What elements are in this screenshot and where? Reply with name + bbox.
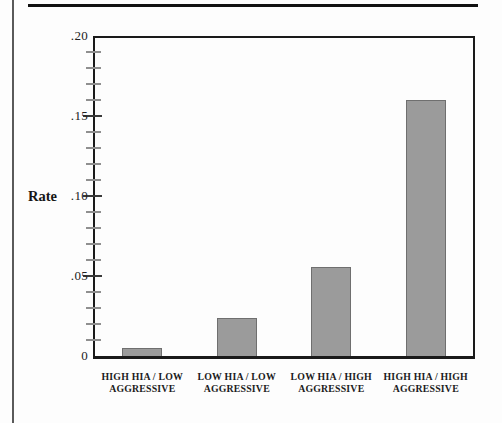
y-minor-tick [86, 147, 101, 149]
y-tick-label: .20 [38, 28, 88, 44]
page-top-rule [28, 4, 478, 7]
y-minor-tick [86, 339, 101, 341]
bar-3 [311, 267, 351, 356]
y-minor-tick [86, 163, 101, 165]
y-minor-tick [86, 83, 101, 85]
bar-4 [406, 100, 446, 356]
x-category-label: HIGH HIA / HIGH AGGRESSIVE [374, 371, 478, 395]
y-minor-tick [86, 211, 101, 213]
x-category-label: LOW HIA / HIGH AGGRESSIVE [279, 371, 383, 395]
page-left-rule [12, 0, 14, 423]
bar-2 [217, 318, 257, 356]
x-category-label: LOW HIA / LOW AGGRESSIVE [185, 371, 289, 395]
bar-1 [122, 348, 162, 356]
y-minor-tick [86, 323, 101, 325]
scanned-page: Rate .20.15.10.050 HIGH HIA / LOW AGGRES… [0, 0, 502, 423]
y-minor-tick [86, 179, 101, 181]
x-category-label: HIGH HIA / LOW AGGRESSIVE [90, 371, 194, 395]
y-tick-label: .05 [38, 268, 88, 284]
plot-area [93, 36, 475, 359]
y-minor-tick [86, 243, 101, 245]
y-minor-tick [86, 307, 101, 309]
y-minor-tick [86, 51, 101, 53]
y-minor-tick [86, 131, 101, 133]
y-minor-tick [86, 227, 101, 229]
y-tick-label: .10 [38, 188, 88, 204]
y-tick-label: .15 [38, 108, 88, 124]
y-minor-tick [86, 259, 101, 261]
y-minor-tick [86, 67, 101, 69]
y-minor-tick [86, 291, 101, 293]
y-minor-tick [86, 99, 101, 101]
y-tick-label: 0 [38, 348, 88, 364]
